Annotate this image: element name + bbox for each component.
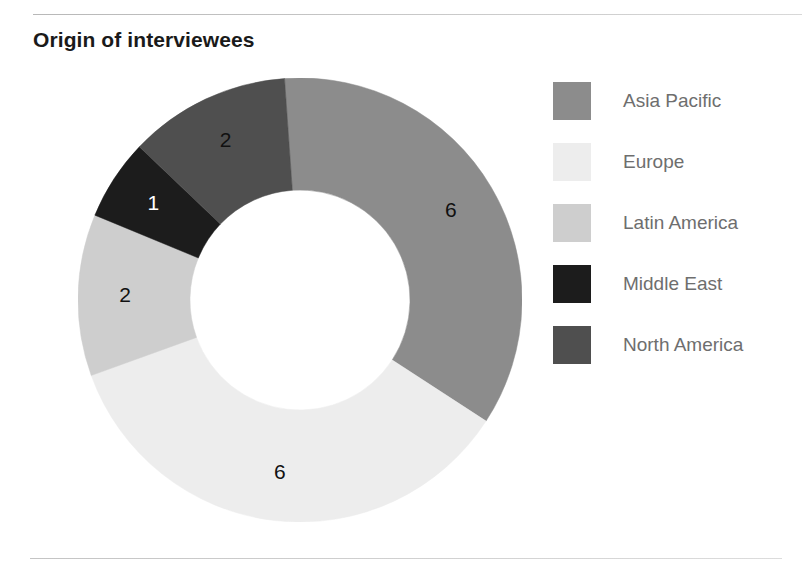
legend-item-middle-east[interactable]: Middle East bbox=[553, 253, 793, 314]
legend-item-asia-pacific[interactable]: Asia Pacific bbox=[553, 70, 793, 131]
donut-slices bbox=[78, 78, 522, 522]
donut-chart: 66212 bbox=[78, 78, 522, 522]
bottom-divider-rule bbox=[30, 558, 782, 559]
legend-item-north-america[interactable]: North America bbox=[553, 314, 793, 375]
legend-label-latin-america: Latin America bbox=[623, 213, 738, 232]
legend-swatch-asia-pacific bbox=[553, 82, 591, 120]
page-title: Origin of interviewees bbox=[33, 28, 255, 52]
donut-slice-value-europe: 6 bbox=[274, 460, 286, 483]
legend-swatch-europe bbox=[553, 143, 591, 181]
donut-slice-value-middle-east: 1 bbox=[148, 191, 160, 214]
legend-label-north-america: North America bbox=[623, 335, 743, 354]
legend-label-asia-pacific: Asia Pacific bbox=[623, 91, 721, 110]
chart-legend: Asia Pacific Europe Latin America Middle… bbox=[553, 70, 793, 375]
legend-swatch-latin-america bbox=[553, 204, 591, 242]
legend-item-europe[interactable]: Europe bbox=[553, 131, 793, 192]
legend-swatch-middle-east bbox=[553, 265, 591, 303]
chart-figure: Origin of interviewees 66212 Asia Pacifi… bbox=[0, 0, 802, 568]
legend-item-latin-america[interactable]: Latin America bbox=[553, 192, 793, 253]
legend-swatch-north-america bbox=[553, 326, 591, 364]
donut-slice-value-asia-pacific: 6 bbox=[445, 198, 457, 221]
legend-label-europe: Europe bbox=[623, 152, 684, 171]
legend-label-middle-east: Middle East bbox=[623, 274, 722, 293]
donut-slice-value-latin-america: 2 bbox=[119, 283, 131, 306]
donut-chart-svg: 66212 bbox=[78, 78, 522, 522]
donut-slice-value-north-america: 2 bbox=[220, 128, 232, 151]
top-divider-rule bbox=[33, 14, 802, 15]
